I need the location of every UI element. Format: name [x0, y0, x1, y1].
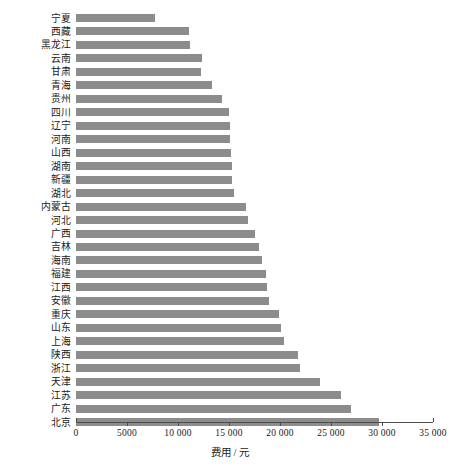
bar-row: [76, 176, 232, 184]
bar: [76, 283, 267, 291]
bar-row: [76, 162, 232, 170]
bar-row: [76, 337, 284, 345]
bar: [76, 364, 300, 372]
bar-row: [76, 230, 255, 238]
category-label: 贵州: [0, 94, 71, 103]
bar: [76, 216, 248, 224]
category-label: 北京: [0, 418, 71, 427]
category-label: 广西: [0, 229, 71, 238]
x-axis-left-cap: [76, 418, 77, 422]
bar: [76, 68, 201, 76]
bar: [76, 243, 259, 251]
bar-row: [76, 14, 155, 22]
x-axis-right-cap: [433, 418, 434, 422]
bar-row: [76, 189, 234, 197]
bar: [76, 149, 231, 157]
category-label: 湖南: [0, 162, 71, 171]
bar: [76, 108, 229, 116]
x-axis-tick-label: 35 000: [419, 428, 446, 438]
category-label: 福建: [0, 269, 71, 278]
bar: [76, 297, 269, 305]
category-label: 浙江: [0, 364, 71, 373]
x-axis-tick: [280, 422, 281, 426]
bar: [76, 81, 212, 89]
bar-row: [76, 54, 202, 62]
bar: [76, 270, 266, 278]
x-axis-tick-label: 25 000: [317, 428, 344, 438]
x-axis-tick: [382, 422, 383, 426]
bar: [76, 95, 222, 103]
x-axis-tick: [178, 422, 179, 426]
bar-row: [76, 405, 351, 413]
x-axis-title: 费用 / 元: [0, 444, 460, 459]
bar: [76, 405, 351, 413]
category-label: 广东: [0, 404, 71, 413]
bar: [76, 54, 202, 62]
category-label: 陕西: [0, 350, 71, 359]
bar: [76, 135, 230, 143]
bar-row: [76, 68, 201, 76]
bar-row: [76, 283, 267, 291]
category-label: 天津: [0, 377, 71, 386]
category-label: 云南: [0, 54, 71, 63]
x-axis-tick-label: 0: [74, 428, 79, 438]
bar-row: [76, 135, 230, 143]
category-label: 安徽: [0, 296, 71, 305]
bar: [76, 256, 262, 264]
bar-row: [76, 270, 266, 278]
bar-row: [76, 351, 298, 359]
bar: [76, 378, 320, 386]
bar-row: [76, 122, 230, 130]
horizontal-bar-chart: 宁夏西藏黑龙江云南甘肃青海贵州四川辽宁河南山西湖南新疆湖北内蒙古河北广西吉林海南…: [0, 0, 460, 475]
bar-row: [76, 149, 231, 157]
category-label: 江苏: [0, 391, 71, 400]
category-label: 湖北: [0, 189, 71, 198]
category-label: 青海: [0, 81, 71, 90]
x-axis-tick: [331, 422, 332, 426]
category-label: 辽宁: [0, 121, 71, 130]
bar-row: [76, 95, 222, 103]
bar-row: [76, 41, 190, 49]
category-label: 河南: [0, 135, 71, 144]
bar-row: [76, 108, 229, 116]
bar: [76, 203, 246, 211]
x-axis-tick-label: 5000: [117, 428, 137, 438]
bar: [76, 310, 279, 318]
bar: [76, 230, 255, 238]
bar-row: [76, 364, 300, 372]
bar-row: [76, 391, 341, 399]
bar: [76, 162, 232, 170]
category-label: 上海: [0, 337, 71, 346]
bar-row: [76, 297, 269, 305]
category-label: 江西: [0, 283, 71, 292]
category-label: 海南: [0, 256, 71, 265]
x-axis-line: [76, 422, 433, 423]
bar: [76, 176, 232, 184]
x-axis-tick-label: 20 000: [266, 428, 293, 438]
category-label: 西藏: [0, 27, 71, 36]
category-label: 内蒙古: [0, 202, 71, 211]
bar: [76, 351, 298, 359]
x-axis-tick: [229, 422, 230, 426]
category-label: 甘肃: [0, 67, 71, 76]
bar: [76, 391, 341, 399]
bar: [76, 14, 155, 22]
bar-row: [76, 310, 279, 318]
bar-row: [76, 27, 189, 35]
category-label: 新疆: [0, 175, 71, 184]
x-axis-tick-label: 15 000: [215, 428, 242, 438]
bar-row: [76, 243, 259, 251]
bar-row: [76, 216, 248, 224]
bar: [76, 337, 284, 345]
x-axis-tick-label: 30 000: [368, 428, 395, 438]
bar-row: [76, 378, 320, 386]
bar-row: [76, 81, 212, 89]
bar-row: [76, 256, 262, 264]
bar: [76, 189, 234, 197]
category-label: 黑龙江: [0, 40, 71, 49]
x-axis-tick: [127, 422, 128, 426]
category-label: 重庆: [0, 310, 71, 319]
bar-row: [76, 203, 246, 211]
bar: [76, 122, 230, 130]
category-label: 吉林: [0, 242, 71, 251]
